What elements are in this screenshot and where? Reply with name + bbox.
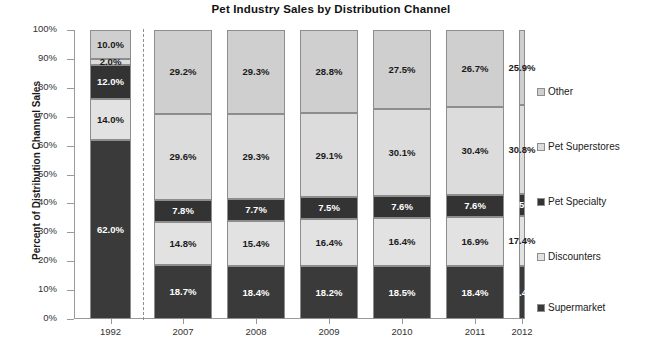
y-axis-tick-label: 90% [38,52,57,63]
legend-item[interactable]: Pet Specialty [537,196,606,207]
legend-item-label: Other [548,86,573,97]
bar-segment[interactable]: 62.0% [90,140,131,319]
legend-item[interactable]: Discounters [537,251,601,262]
bar-segment[interactable]: 12.0% [90,65,131,100]
legend-swatch-icon [537,198,545,206]
bar-column[interactable]: 18.4%16.9%7.6%30.4%26.7% [446,30,504,319]
bar-segment[interactable]: 28.8% [300,30,358,113]
bar-segment-value-label: 30.4% [462,146,489,156]
bar-column[interactable]: 62.0%14.0%12.0%2.0%10.0% [90,30,131,319]
legend-swatch-icon [537,143,545,151]
bar-segment[interactable]: 16.4% [300,219,358,266]
y-axis-tick: 0% [67,319,74,320]
bar-segment-value-label: 18.5% [389,288,416,298]
x-axis-tick [522,319,523,324]
bar-segment-value-label: 25.9% [509,63,536,73]
bar-segment-value-label: 10.0% [97,40,124,50]
bar-column[interactable]: 18.5%16.4%7.6%30.1%27.5% [373,30,431,319]
y-axis-tick-label: 0% [43,312,57,323]
plot-area: 0%10%20%30%40%50%60%70%80%90%100% 199220… [74,30,525,319]
bar-segment[interactable]: 29.3% [227,114,285,199]
y-axis-tick: 100% [67,30,74,31]
bar-segment[interactable]: 29.6% [154,114,212,200]
bar-segment-value-label: 18.2% [316,288,343,298]
bar-segment[interactable]: 7.6% [373,196,431,218]
x-axis-tick [402,319,403,324]
bar-segment[interactable]: 16.4% [373,218,431,265]
bar-segment[interactable]: 7.5% [300,197,358,219]
bar-segment[interactable]: 25.9% [519,30,525,105]
bar-segment[interactable]: 29.2% [154,30,212,114]
bar-segment[interactable]: 18.4% [519,266,525,319]
legend-item[interactable]: Pet Superstores [537,141,620,152]
legend-item[interactable]: Supermarket [537,302,605,313]
bar-segment-value-label: 18.4% [462,288,489,298]
bar-segment[interactable]: 18.7% [154,265,212,319]
bar-segment-value-label: 62.0% [97,225,124,235]
bar-segment-value-label: 14.8% [170,239,197,249]
y-axis-tick-label: 80% [38,81,57,92]
legend-item-label: Supermarket [548,302,605,313]
y-axis-tick: 40% [67,203,74,204]
bar-segment-value-label: 30.1% [389,148,416,158]
bar-segment[interactable]: 14.8% [154,222,212,265]
bar-column[interactable]: 18.7%14.8%7.8%29.6%29.2% [154,30,212,319]
bar-segment[interactable]: 29.3% [227,30,285,115]
x-axis-tick-label: 2009 [299,326,359,337]
bar-segment[interactable]: 17.4% [519,216,525,266]
bar-segment[interactable]: 7.6% [446,195,504,217]
y-axis-tick: 70% [67,117,74,118]
bar-segment[interactable]: 30.4% [446,107,504,195]
legend-item[interactable]: Other [537,86,573,97]
bar-segment-value-label: 7.8% [172,206,194,216]
bar-segment-value-label: 28.8% [316,67,343,77]
bar-segment[interactable]: 18.5% [373,266,431,319]
bar-segment-value-label: 18.7% [170,287,197,297]
bar-segment-value-label: 29.6% [170,152,197,162]
period-separator-line [143,29,144,320]
legend-item-label: Pet Superstores [548,141,620,152]
bar-segment[interactable]: 18.4% [446,266,504,319]
bar-segment-value-label: 16.4% [316,238,343,248]
bar-column[interactable]: 18.4%17.4%7.5%30.8%25.9% [519,30,525,319]
y-axis-tick: 60% [67,146,74,147]
chart-title: Pet Industry Sales by Distribution Chann… [0,3,662,15]
bar-segment-value-label: 16.9% [462,237,489,247]
bar-segment-value-label: 7.6% [391,202,413,212]
bar-segment-value-label: 18.4% [509,288,536,298]
y-axis-tick-label: 30% [38,225,57,236]
bar-segment-value-label: 29.3% [243,67,270,77]
bar-segment[interactable]: 14.0% [90,99,131,139]
bar-segment[interactable]: 7.7% [227,199,285,221]
bar-segment[interactable]: 26.7% [446,30,504,107]
bar-segment[interactable]: 30.1% [373,109,431,196]
y-axis-tick: 20% [67,261,74,262]
bar-segment[interactable]: 2.0% [90,59,131,65]
legend-swatch-icon [537,88,545,96]
bar-segment[interactable]: 10.0% [90,30,131,59]
bar-segment[interactable]: 18.2% [300,266,358,319]
x-axis-tick [256,319,257,324]
bar-segment[interactable]: 18.4% [227,266,285,319]
bar-segment-value-label: 29.1% [316,151,343,161]
bar-segment[interactable]: 7.5% [519,194,525,216]
bar-segment-value-label: 26.7% [462,64,489,74]
bar-column[interactable]: 18.2%16.4%7.5%29.1%28.8% [300,30,358,319]
y-axis-tick-label: 70% [38,110,57,121]
y-axis-tick-label: 100% [33,23,57,34]
chart-legend: OtherPet SuperstoresPet SpecialtyDiscoun… [537,30,662,319]
bar-segment[interactable]: 15.4% [227,221,285,266]
bar-segment[interactable]: 16.9% [446,217,504,266]
y-axis-tick-label: 50% [38,168,57,179]
bar-segment[interactable]: 7.8% [154,200,212,223]
bar-segment-value-label: 17.4% [509,236,536,246]
y-axis-tick: 10% [67,290,74,291]
bar-column[interactable]: 18.4%15.4%7.7%29.3%29.3% [227,30,285,319]
bar-segment-value-label: 30.8% [509,145,536,155]
y-axis-line [74,30,75,319]
bar-segment[interactable]: 27.5% [373,30,431,109]
bar-segment[interactable]: 30.8% [519,105,525,194]
bar-segment-value-label: 18.4% [243,288,270,298]
bar-segment-value-label: 7.5% [511,200,533,210]
bar-segment[interactable]: 29.1% [300,113,358,197]
